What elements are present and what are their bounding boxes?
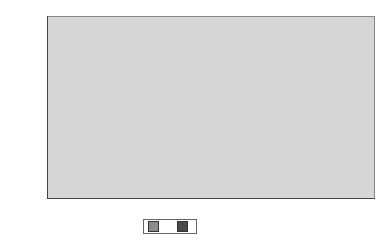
legend-swatch-favor: [148, 221, 159, 232]
x-axis: [47, 198, 375, 199]
plot-area: [47, 16, 375, 199]
legend-swatch-against: [177, 221, 188, 232]
legend: [143, 219, 197, 234]
y-axis: [47, 16, 48, 199]
